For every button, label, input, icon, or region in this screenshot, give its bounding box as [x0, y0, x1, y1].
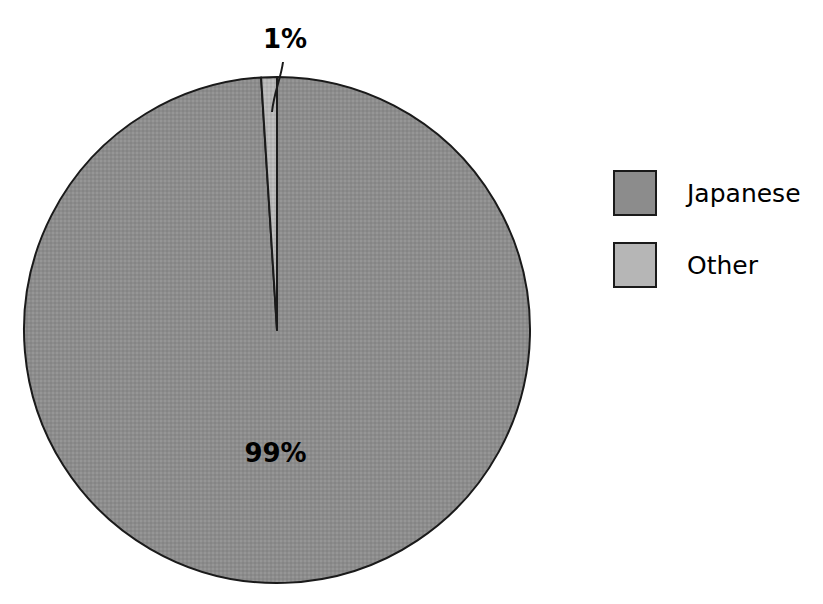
legend: Japanese Other — [613, 170, 823, 314]
legend-swatch-other — [613, 242, 657, 288]
slice-value-label-other: 1% — [0, 24, 570, 54]
legend-item-other[interactable]: Other — [613, 242, 823, 288]
slice-value-label-japanese: 99% — [0, 438, 551, 468]
legend-item-japanese[interactable]: Japanese — [613, 170, 823, 216]
legend-label-japanese: Japanese — [687, 181, 801, 206]
legend-swatch-japanese — [613, 170, 657, 216]
pie-chart-figure: 1% 99% Japanese Other — [0, 0, 823, 604]
legend-label-other: Other — [687, 253, 758, 278]
